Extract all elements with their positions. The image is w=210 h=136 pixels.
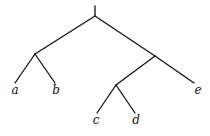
edge-n2-e	[155, 56, 194, 83]
leaf-label-c: c	[93, 113, 100, 127]
leaf-label-e: e	[194, 83, 201, 97]
edge-n1-b	[35, 54, 55, 83]
tree-diagram: a b c d e	[0, 0, 210, 136]
edge-n1-a	[15, 54, 35, 83]
edge-n3-c	[97, 85, 116, 113]
edge-root-n2	[95, 16, 155, 56]
leaf-label-b: b	[52, 83, 60, 97]
edge-n2-n3	[116, 56, 155, 85]
leaf-label-a: a	[11, 83, 18, 97]
edge-root-n1	[35, 16, 95, 54]
edge-n3-d	[116, 85, 135, 113]
leaf-label-d: d	[132, 113, 140, 127]
